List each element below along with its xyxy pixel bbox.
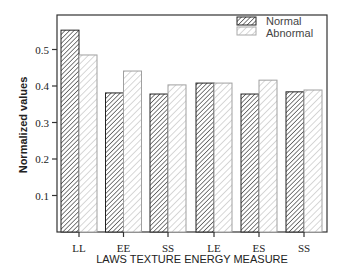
bar-normal-le [196,83,214,232]
y-tick-label: 0.4 [35,80,49,92]
y-tick-label: 0.3 [35,117,49,129]
bar-normal-ss [286,92,304,232]
bar-abnormal-ss [304,90,322,232]
y-tick-label: 0.2 [35,153,49,165]
legend-label-normal: Normal [266,15,301,27]
bars-group [61,30,322,232]
legend-swatch-normal [237,17,256,25]
bar-normal-es [241,94,259,232]
legend-swatch-abnormal [237,27,256,35]
legend-label-abnormal: Abnormal [266,27,313,39]
bar-abnormal-ss [168,85,186,232]
bar-chart: 0.10.20.30.40.5 LLEESSLEESSS LAWS TEXTUR… [0,0,346,280]
bar-normal-ll [61,30,79,232]
legend: Normal Abnormal [237,15,313,39]
y-axis-title: Normalized values [17,77,29,174]
bar-normal-ss [150,94,168,232]
x-axis-title: LAWS TEXTURE ENERGY MEASURE [96,253,288,265]
y-tick-label: 0.1 [35,190,49,202]
bar-abnormal-ll [79,55,97,232]
x-tick-label: SS [298,242,310,254]
bar-abnormal-ee [124,71,142,232]
x-axis-ticks: LLEESSLEESSS [72,232,310,254]
bar-abnormal-le [214,83,232,232]
x-tick-label: LL [72,242,86,254]
y-axis-ticks: 0.10.20.30.40.5 [35,44,57,202]
y-tick-label: 0.5 [35,44,49,56]
bar-abnormal-es [259,80,277,232]
bar-normal-ee [106,93,124,232]
